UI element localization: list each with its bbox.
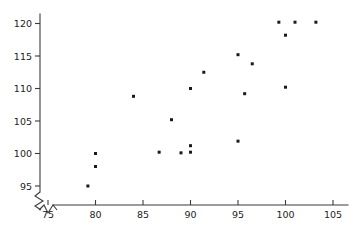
y-axis-tick-label: 105 [14, 116, 32, 127]
data-point [180, 151, 183, 154]
data-point [189, 144, 192, 147]
data-point [132, 95, 135, 98]
data-point [243, 92, 246, 95]
data-point [251, 62, 254, 65]
data-point [314, 21, 317, 24]
data-point [94, 152, 97, 155]
x-axis-tick-label: 90 [184, 209, 196, 220]
data-point [284, 86, 287, 89]
y-axis-tick-label: 95 [20, 181, 32, 192]
y-axis-tick-label: 100 [14, 148, 32, 159]
data-point [294, 21, 297, 24]
scatter-plot-figure: 951001051101151207580859095100105 [0, 0, 358, 229]
data-point [237, 140, 240, 143]
plot-canvas: 951001051101151207580859095100105 [0, 0, 358, 229]
data-point [86, 185, 89, 188]
data-point [202, 71, 205, 74]
x-axis-tick-label: 75 [42, 209, 54, 220]
x-axis-tick-label: 95 [232, 209, 244, 220]
data-point [237, 53, 240, 56]
data-point [189, 151, 192, 154]
y-axis-tick-label: 120 [14, 18, 32, 29]
y-axis-tick-label: 110 [14, 83, 32, 94]
y-axis-tick-label: 115 [14, 51, 32, 62]
x-axis-tick-label: 100 [276, 209, 294, 220]
x-axis-tick-label: 85 [137, 209, 149, 220]
data-point [158, 151, 161, 154]
x-axis-tick-label: 105 [324, 209, 342, 220]
data-point [189, 87, 192, 90]
x-axis-tick-label: 80 [89, 209, 101, 220]
data-point [284, 34, 287, 37]
data-point [94, 165, 97, 168]
data-point [277, 21, 280, 24]
data-point [170, 118, 173, 121]
